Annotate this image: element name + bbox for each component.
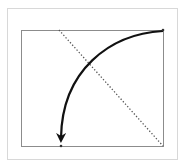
dotted-diagonal	[59, 30, 163, 146]
curved-arrow	[61, 31, 163, 138]
inner-box	[22, 31, 164, 147]
rotation-diagram	[0, 0, 189, 168]
end-point-dot	[60, 145, 63, 148]
start-point-dot	[162, 29, 165, 32]
